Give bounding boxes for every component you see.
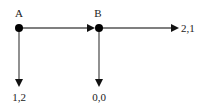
- payoff-b-down: 0,0: [92, 91, 106, 103]
- payoff-a-down: 1,2: [12, 91, 26, 103]
- game-tree-diagram: A B 2,1 1,2 0,0: [0, 0, 206, 109]
- node-b-label: B: [94, 7, 101, 19]
- payoff-b-right: 2,1: [181, 22, 195, 34]
- arrowhead-right-icon: [171, 24, 179, 32]
- arrowhead-down-icon: [95, 79, 103, 87]
- node-a-label: A: [15, 7, 23, 19]
- node-b: [95, 24, 103, 32]
- arrowhead-down-icon: [15, 79, 23, 87]
- node-a: [15, 24, 23, 32]
- arrowhead-right-icon: [87, 24, 95, 32]
